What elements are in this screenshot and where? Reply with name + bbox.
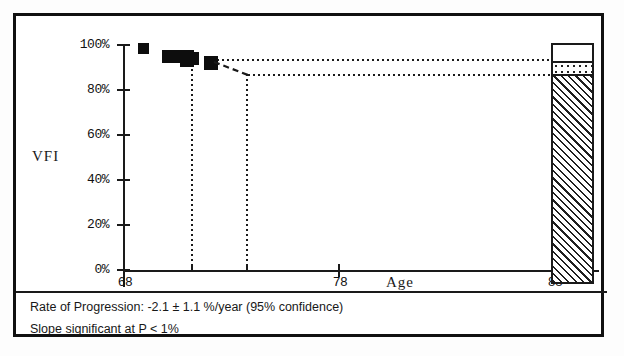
slope-significance-text: Slope significant at P < 1%	[30, 322, 179, 336]
y-tick-20	[117, 224, 130, 226]
bar-segment-projected-loss	[553, 61, 592, 76]
data-point	[204, 56, 218, 70]
bar-segment-current-vfi	[553, 76, 592, 282]
x-axis	[123, 270, 599, 272]
y-tick-label-0: 0%	[57, 262, 109, 277]
guide-horizontal-lower	[248, 74, 552, 76]
x-axis-title: Age	[386, 274, 414, 291]
guide-vertical-2	[246, 74, 248, 271]
y-tick-label-100: 100%	[57, 37, 109, 52]
rate-of-progression-text: Rate of Progression: -2.1 ± 1.1 %/year (…	[30, 300, 343, 314]
y-tick-40	[117, 179, 130, 181]
bar-segment-remaining	[553, 45, 592, 61]
y-tick-100	[117, 44, 130, 46]
x-tick-label-78: 78	[320, 275, 360, 290]
guide-vertical-1	[191, 59, 193, 271]
y-axis	[123, 44, 125, 287]
y-axis-title: VFI	[32, 148, 59, 165]
vfi-progression-panel: 100% 80% 60% 40% 20% 0% 68 78 88 VFI Age	[0, 0, 624, 356]
data-point	[186, 52, 199, 65]
plot-area: 100% 80% 60% 40% 20% 0% 68 78 88 VFI Age	[16, 16, 607, 340]
y-tick-label-40: 40%	[57, 172, 109, 187]
guide-horizontal-upper	[212, 59, 552, 61]
y-tick-label-20: 20%	[57, 217, 109, 232]
y-tick-80	[117, 89, 130, 91]
chart-frame: 100% 80% 60% 40% 20% 0% 68 78 88 VFI Age	[13, 13, 604, 337]
data-point	[138, 43, 149, 54]
y-tick-60	[117, 134, 130, 136]
footer-divider	[16, 291, 607, 293]
y-tick-label-60: 60%	[57, 127, 109, 142]
vfi-summary-bar	[551, 43, 594, 284]
y-tick-label-80: 80%	[57, 82, 109, 97]
x-tick-label-68: 68	[105, 275, 145, 290]
